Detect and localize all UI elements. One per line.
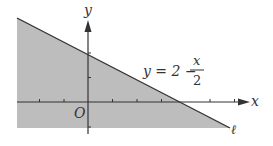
equation-denominator: 2 — [193, 73, 201, 88]
inequality-graph: y x O ℓ y = 2 − x 2 — [0, 0, 273, 146]
equation-numerator: x — [193, 53, 201, 68]
y-axis-label: y — [83, 2, 93, 18]
y-axis-arrow-icon — [85, 20, 92, 32]
x-axis-arrow-icon — [238, 99, 250, 106]
origin-label: O — [74, 105, 86, 121]
graph-canvas: y x O ℓ y = 2 − x 2 — [0, 0, 273, 146]
x-axis-label: x — [251, 93, 259, 109]
equation-lhs: y = 2 − — [142, 63, 197, 79]
line-label: ℓ — [231, 122, 237, 137]
